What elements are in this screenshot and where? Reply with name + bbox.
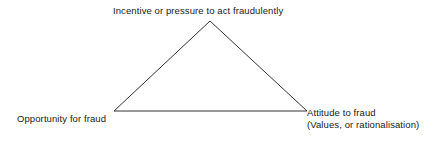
label-incentive-or-pressure: Incentive or pressure to act fraudulentl… (113, 5, 283, 17)
label-opportunity-text: Opportunity for fraud (17, 113, 106, 125)
triangle-outline (114, 21, 307, 111)
label-attitude-to-fraud: Attitude to fraud (Values, or rationalis… (307, 107, 419, 131)
label-attitude-text-line1: Attitude to fraud (307, 107, 419, 119)
label-opportunity-for-fraud: Opportunity for fraud (17, 113, 106, 125)
label-attitude-text-line2: (Values, or rationalisation) (307, 119, 419, 131)
fraud-triangle-diagram: Incentive or pressure to act fraudulentl… (0, 0, 443, 143)
label-incentive-text: Incentive or pressure to act fraudulentl… (113, 5, 283, 17)
